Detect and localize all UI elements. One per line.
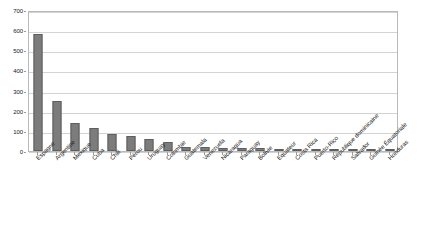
bar-slot: [214, 12, 233, 151]
bar-slot: [66, 12, 85, 151]
bar-slot: [122, 12, 141, 151]
bar[interactable]: [34, 34, 43, 151]
bars-layer: [29, 12, 397, 151]
y-axis-tick-label: 700: [13, 8, 23, 14]
y-axis-tick-label: 100: [13, 129, 23, 135]
bar-slot: [159, 12, 178, 151]
chart-caption: [0, 228, 426, 235]
bar-slot: [177, 12, 196, 151]
bar[interactable]: [108, 134, 117, 151]
bar-slot: [29, 12, 48, 151]
y-axis-tick-label: 300: [13, 89, 23, 95]
bar-slot: [233, 12, 252, 151]
bar-slot: [325, 12, 344, 151]
x-axis: EspagneArgentineMexiqueCubaChiliPérouUru…: [28, 152, 398, 235]
y-axis-tick-mark: [24, 71, 26, 72]
bar-slot: [103, 12, 122, 151]
y-axis: 0100200300400500600700: [0, 11, 26, 152]
y-axis-tick-mark: [24, 132, 26, 133]
bar-slot: [48, 12, 67, 151]
y-axis-tick-label: 600: [13, 28, 23, 34]
y-axis-tick-mark: [24, 92, 26, 93]
y-axis-tick-mark: [24, 11, 26, 12]
y-axis-tick-mark: [24, 112, 26, 113]
bar-chart: 0100200300400500600700 EspagneArgentineM…: [0, 0, 426, 235]
y-axis-tick-label: 500: [13, 48, 23, 54]
y-axis-tick-mark: [24, 51, 26, 52]
bar-slot: [85, 12, 104, 151]
bar-slot: [140, 12, 159, 151]
bar[interactable]: [126, 136, 135, 151]
plot-area: [28, 11, 398, 152]
bar-slot: [307, 12, 326, 151]
y-axis-tick-label: 400: [13, 68, 23, 74]
bar-slot: [196, 12, 215, 151]
bar-slot: [288, 12, 307, 151]
bar-slot: [270, 12, 289, 151]
y-axis-tick-label: 0: [20, 149, 23, 155]
y-axis-tick-mark: [24, 31, 26, 32]
bar-slot: [251, 12, 270, 151]
y-axis-tick-mark: [24, 152, 26, 153]
y-axis-tick-label: 200: [13, 109, 23, 115]
